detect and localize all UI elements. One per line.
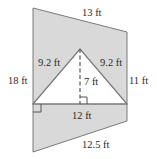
- label-top: 13 ft: [82, 7, 102, 18]
- label-triangle-base: 12 ft: [72, 110, 92, 121]
- composite-figure-diagram: 13 ft 18 ft 11 ft 12.5 ft 9.2 ft 9.2 ft …: [0, 0, 157, 159]
- label-triangle-height: 7 ft: [84, 76, 98, 87]
- label-right: 11 ft: [129, 75, 148, 86]
- label-bottom: 12.5 ft: [82, 139, 109, 150]
- label-left: 18 ft: [8, 75, 28, 86]
- label-triangle-right: 9.2 ft: [100, 57, 122, 68]
- label-triangle-left: 9.2 ft: [38, 57, 60, 68]
